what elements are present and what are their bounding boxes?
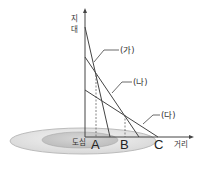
x-axis-label: 거리 bbox=[174, 140, 188, 149]
origin-label: 도심 bbox=[72, 137, 86, 147]
curve-label-ga: (가) bbox=[120, 45, 135, 55]
leader-na bbox=[112, 82, 132, 93]
leader-ga bbox=[94, 50, 119, 62]
point-label-a: A bbox=[91, 137, 100, 152]
point-label-c: C bbox=[154, 137, 163, 152]
curve-label-na: (나) bbox=[133, 77, 148, 87]
y-axis-label-1: 지 bbox=[71, 14, 78, 23]
curve-label-da: (다) bbox=[161, 110, 176, 120]
y-axis-label-2: 대 bbox=[71, 25, 78, 34]
point-label-b: B bbox=[120, 137, 129, 152]
leader-da bbox=[143, 115, 160, 124]
bid-rent-diagram: (가) (나) (다) 지 대 거리 도심 A B C bbox=[0, 0, 202, 169]
curve-ga bbox=[85, 27, 110, 137]
curve-na bbox=[85, 57, 139, 137]
